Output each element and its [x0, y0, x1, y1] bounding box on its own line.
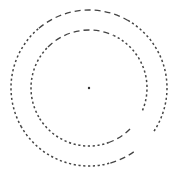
outer-ring-segment	[128, 20, 167, 132]
inner-ring-segment	[48, 30, 114, 47]
outer-ring-segment	[109, 152, 134, 163]
inner-ring-segment	[114, 35, 147, 112]
outer-ring-segment	[21, 127, 109, 166]
inner-ring-segment	[31, 47, 48, 117]
outer-ring-segment	[11, 28, 39, 127]
concentric-rings-diagram	[0, 0, 175, 180]
inner-ring-segment	[39, 117, 109, 146]
outer-ring-segment	[39, 10, 128, 28]
center-dot	[88, 87, 90, 89]
inner-ring-segment	[109, 129, 130, 142]
